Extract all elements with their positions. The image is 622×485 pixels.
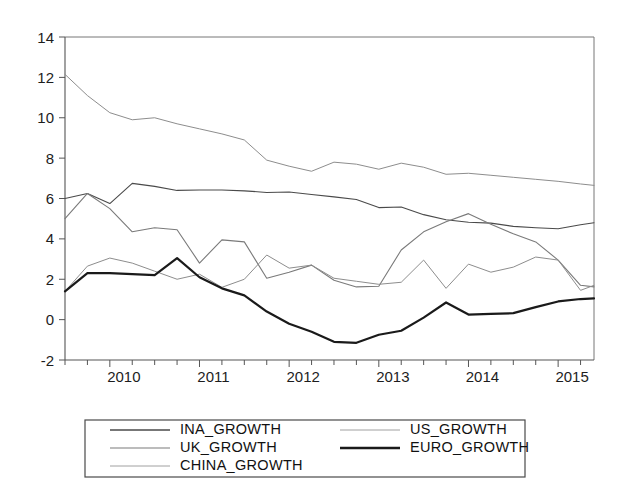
x-axis-tick-labels: 201020112012201320142015 <box>107 368 589 385</box>
y-tick-label: 10 <box>37 109 54 126</box>
series-line-china-growth <box>65 74 594 185</box>
growth-line-chart: -202468101214 201020112012201320142015 I… <box>0 0 622 485</box>
y-tick-label: 14 <box>37 29 54 46</box>
series-line-ina-growth <box>65 183 594 228</box>
x-tick-label: 2015 <box>555 368 588 385</box>
y-tick-label: 12 <box>37 69 54 86</box>
x-tick-label: 2010 <box>107 368 140 385</box>
chart-canvas: -202468101214 201020112012201320142015 I… <box>0 0 622 485</box>
y-tick-label: 6 <box>46 190 54 207</box>
x-tick-label: 2012 <box>286 368 319 385</box>
y-axis-tick-labels: -202468101214 <box>37 29 54 369</box>
y-tick-label: 4 <box>46 230 54 247</box>
series-line-uk-growth <box>65 193 594 286</box>
series-line-euro-growth <box>65 258 594 343</box>
legend-label-text: US_GROWTH <box>410 421 507 437</box>
x-tick-label: 2014 <box>466 368 499 385</box>
x-tick-label: 2013 <box>376 368 409 385</box>
x-tick-label: 2011 <box>197 368 229 385</box>
legend-label-text: INA_GROWTH <box>180 421 281 437</box>
legend-label-text: CHINA_GROWTH <box>180 457 303 473</box>
x-axis-ticks <box>65 360 581 367</box>
y-tick-label: 8 <box>46 150 54 167</box>
legend-label-text: UK_GROWTH <box>180 439 277 455</box>
series-line-us-growth <box>65 255 594 291</box>
y-tick-label: -2 <box>41 352 54 369</box>
chart-legend: INA_GROWTHUK_GROWTHCHINA_GROWTHUS_GROWTH… <box>85 420 529 477</box>
legend-label-text: EURO_GROWTH <box>410 439 529 455</box>
y-axis-ticks <box>59 37 65 360</box>
y-tick-label: 0 <box>46 311 54 328</box>
plot-frame <box>65 37 594 360</box>
y-tick-label: 2 <box>46 271 54 288</box>
data-series-group <box>65 74 594 342</box>
